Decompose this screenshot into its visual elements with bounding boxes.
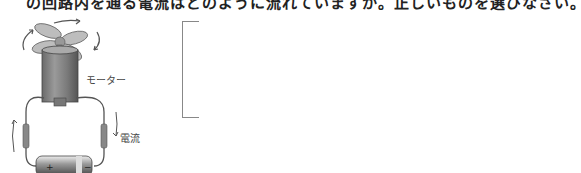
battery-plus: + <box>46 162 54 172</box>
question-text: の回路内を通る電流はどのように流れていますか。正しいものを選びなさい。 <box>26 0 581 12</box>
motor-label: モーター <box>86 72 126 87</box>
circuit-diagram: + − モーター 電流 <box>0 14 170 173</box>
battery-icon: + − <box>36 156 92 173</box>
clip-icon <box>101 124 107 148</box>
answer-bracket <box>182 21 199 118</box>
circuit-illustration: + − <box>0 14 170 173</box>
clip-icon <box>23 124 29 148</box>
battery-minus: − <box>84 162 92 172</box>
motor-icon <box>42 46 78 106</box>
current-label: 電流 <box>120 130 140 145</box>
